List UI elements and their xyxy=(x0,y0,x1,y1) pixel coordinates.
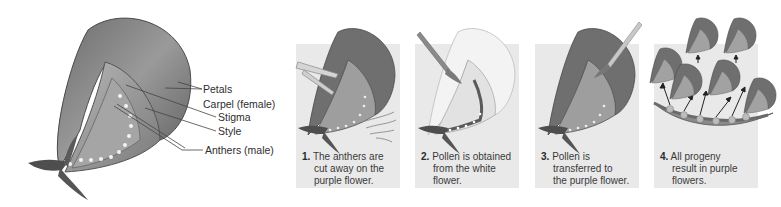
label-petals: Petals xyxy=(203,83,232,95)
label-anthers: Anthers (male) xyxy=(205,144,274,156)
step-4-caption: 4. All progeny result in purple flowers. xyxy=(660,151,738,187)
step-4-line-3: flowers. xyxy=(660,175,738,187)
step-1-line-1: The anthers are xyxy=(313,151,384,162)
step-3-caption: 3. Pollen is transferred to the purple f… xyxy=(541,151,629,187)
step-3-line-1: Pollen is xyxy=(552,151,590,162)
step-4-line-2: result in purple xyxy=(660,163,738,175)
label-carpel: Carpel (female) xyxy=(203,98,275,110)
flower-anatomy-illustration xyxy=(0,0,200,207)
step-2-illustration xyxy=(410,20,530,140)
step-2-line-2: from the white xyxy=(421,163,511,175)
step-1-number: 1. xyxy=(302,151,310,162)
step-1-caption: 1. The anthers are cut away on the purpl… xyxy=(302,151,384,187)
step-2-number: 2. xyxy=(421,151,429,162)
step-2-line-3: flower. xyxy=(421,175,511,187)
label-style: Style xyxy=(218,125,241,137)
step-1-line-2: cut away on the xyxy=(302,163,384,175)
step-2-line-1: Pollen is obtained xyxy=(432,151,511,162)
step-3-illustration xyxy=(530,20,650,140)
step-3-number: 3. xyxy=(541,151,549,162)
step-3-line-2: transferred to xyxy=(541,163,629,175)
step-1-line-3: purple flower. xyxy=(302,175,384,187)
label-stigma: Stigma xyxy=(218,111,251,123)
step-4-line-1: All progeny xyxy=(671,151,721,162)
step-1-illustration xyxy=(290,20,410,140)
step-4-number: 4. xyxy=(660,151,668,162)
step-2-caption: 2. Pollen is obtained from the white flo… xyxy=(421,151,511,187)
step-3-line-3: the purple flower. xyxy=(541,175,629,187)
step-4-illustration xyxy=(648,5,781,145)
